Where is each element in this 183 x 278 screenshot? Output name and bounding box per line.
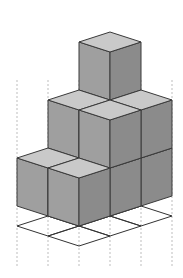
diagram-canvas — [0, 0, 183, 278]
unit-cube — [79, 32, 141, 100]
unit-cube — [48, 158, 110, 226]
cube-stack — [17, 32, 172, 226]
cube-stack-figure — [0, 0, 183, 278]
unit-cube — [79, 100, 141, 168]
